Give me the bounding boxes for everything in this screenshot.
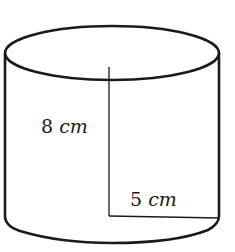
radius-line	[109, 216, 219, 218]
cylinder-figure	[0, 0, 235, 252]
radius-label: 5 cm	[130, 190, 177, 209]
bottom-arc	[5, 216, 219, 243]
top-ellipse	[5, 26, 219, 80]
height-unit: cm	[59, 115, 88, 137]
radius-value: 5	[130, 188, 142, 210]
height-label: 8 cm	[41, 117, 88, 136]
radius-unit: cm	[148, 188, 177, 210]
height-value: 8	[41, 115, 53, 137]
